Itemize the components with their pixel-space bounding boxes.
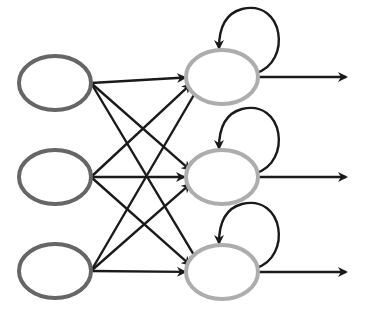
edges-layer xyxy=(91,78,198,272)
nodes-layer xyxy=(19,50,258,299)
hidden-node-h1 xyxy=(186,50,258,104)
self-loops-layer xyxy=(219,8,279,268)
hidden-node-h3 xyxy=(186,245,258,299)
edge-x3-to-h1 xyxy=(91,88,198,271)
outputs-layer xyxy=(258,77,346,272)
edge-x3-to-h2 xyxy=(91,184,190,271)
input-node-x3 xyxy=(19,244,91,298)
edge-x3-to-h3 xyxy=(91,271,185,272)
hidden-node-h2 xyxy=(186,150,258,204)
edge-x2-to-h3 xyxy=(91,177,190,265)
rnn-diagram xyxy=(0,0,367,324)
edge-x1-to-h3 xyxy=(91,83,197,261)
input-node-x2 xyxy=(19,150,91,204)
edge-x1-to-h1 xyxy=(91,78,185,83)
input-node-x1 xyxy=(19,56,91,110)
edge-x2-to-h1 xyxy=(91,85,190,177)
